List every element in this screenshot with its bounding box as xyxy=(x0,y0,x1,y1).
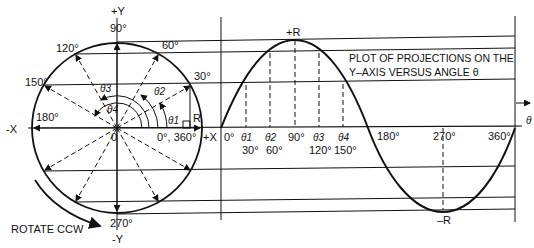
radius-label: R xyxy=(193,112,201,124)
tick-120: 120° xyxy=(309,144,332,156)
tick-60: 60° xyxy=(266,144,283,156)
rotate-ccw-label: ROTATE CCW xyxy=(11,223,84,235)
theta3-label: θ3 xyxy=(100,83,111,94)
deg-120-label: 120° xyxy=(56,42,79,54)
origin-label: 0 xyxy=(111,131,117,143)
tick-theta1: θ1 xyxy=(241,132,252,143)
theta4-label: θ4 xyxy=(107,104,118,115)
deg-60-label: 60° xyxy=(162,39,179,51)
tick-150: 150° xyxy=(334,144,357,156)
minus-x-label: -X xyxy=(6,123,18,135)
plus-y-label: +Y xyxy=(111,5,125,17)
plot-title-line1: PLOT OF PROJECTIONS ON THE xyxy=(349,52,514,64)
peak-label: +R xyxy=(286,26,300,38)
tick-90: 90° xyxy=(288,131,305,143)
theta-axis-label: θ xyxy=(526,115,532,126)
tick-theta3: θ3 xyxy=(313,132,324,143)
deg-30-label: 30° xyxy=(194,70,211,82)
tick-360: 360° xyxy=(488,130,511,142)
tick-0: 0° xyxy=(224,131,235,143)
rotate-ccw-arrow xyxy=(35,180,100,226)
theta1-label: θ1 xyxy=(168,115,179,126)
tick-30: 30° xyxy=(242,144,259,156)
tick-180: 180° xyxy=(377,130,400,142)
radius-vectors xyxy=(34,44,200,211)
deg-90-label: 90° xyxy=(110,22,127,34)
deg-0-360-label: 0°, 360° xyxy=(157,131,196,143)
sine-wave-generation-diagram: +Y 90° 60° 120° 30° 150° 180° -X 0 0°, 3… xyxy=(0,0,534,248)
minus-y-label: -Y xyxy=(112,233,124,245)
trough-label: –R xyxy=(437,214,451,226)
angle-arcs xyxy=(95,95,167,128)
plus-x-label: +X xyxy=(203,131,217,143)
tick-theta4: θ4 xyxy=(338,132,349,143)
deg-180-label: 180° xyxy=(36,111,59,123)
tick-theta2: θ2 xyxy=(265,132,276,143)
theta2-label: θ2 xyxy=(154,86,165,97)
plot-title-line2: Y–AXIS VERSUS ANGLE θ xyxy=(349,66,479,78)
deg-270-label: 270° xyxy=(110,217,133,229)
deg-150-label: 150° xyxy=(25,76,48,88)
tick-270: 270° xyxy=(433,130,456,142)
